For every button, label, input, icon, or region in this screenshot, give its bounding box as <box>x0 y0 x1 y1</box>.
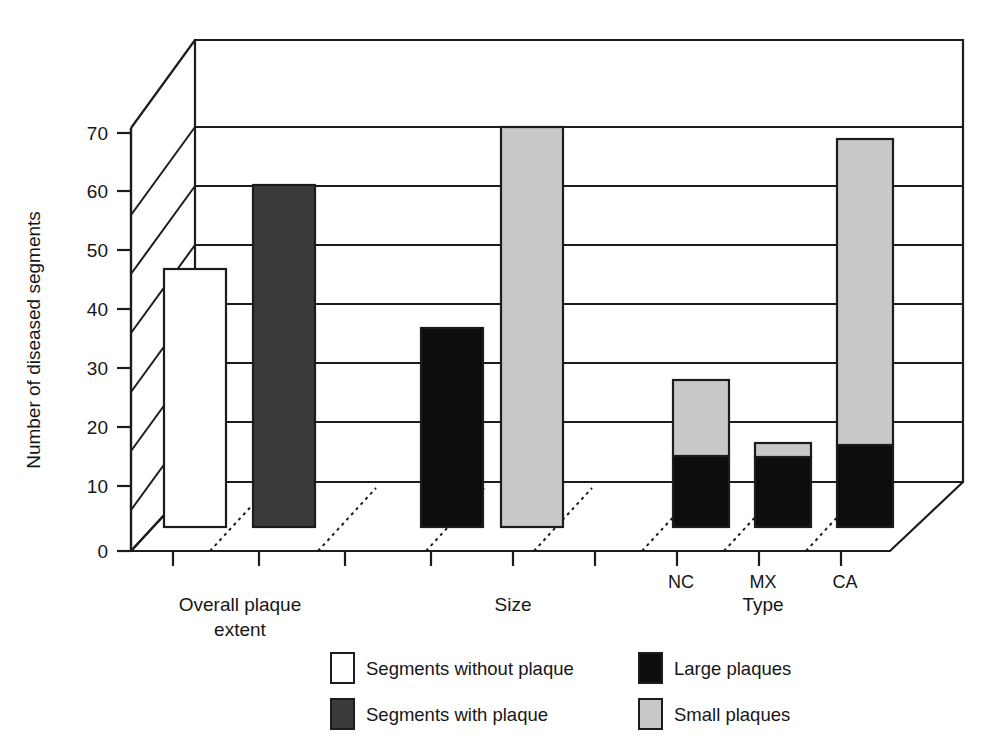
x-sub-label-ca: CA <box>832 572 857 592</box>
group-label-overall-plaque-extent-line2: extent <box>214 619 266 640</box>
bar-size-large-plaques[interactable] <box>421 328 483 527</box>
legend-label-segments-with-plaque: Segments with plaque <box>366 704 548 725</box>
legend-swatch-segments-without-plaque <box>331 653 354 683</box>
bar-group-overall-plaque-extent <box>164 185 315 527</box>
group-label-overall-plaque-extent-line1: Overall plaque <box>179 594 302 615</box>
bar-group-type <box>673 139 893 527</box>
legend-item-small-plaques[interactable]: Small plaques <box>639 699 790 729</box>
legend-item-segments-without-plaque[interactable]: Segments without plaque <box>331 653 574 683</box>
y-tick-label-20: 20 <box>87 417 108 438</box>
bar-mx-large-plaques[interactable] <box>755 457 811 527</box>
y-tick-label-30: 30 <box>87 358 108 379</box>
left-wall-top-edge <box>131 40 195 128</box>
bar-segments-with-plaque[interactable] <box>253 185 315 527</box>
y-tick-label-10: 10 <box>87 476 108 497</box>
y-tick-label-60: 60 <box>87 181 108 202</box>
depth-line-2 <box>318 488 376 551</box>
x-sub-label-mx: MX <box>750 572 777 592</box>
stacked-bar-nc <box>673 380 729 527</box>
chart-figure: 70 60 50 40 30 20 10 0 Number of disease… <box>0 0 990 747</box>
y-tick-label-40: 40 <box>87 299 108 320</box>
gridline-slant-60 <box>131 186 195 274</box>
bar-size-small-plaques[interactable] <box>501 127 563 527</box>
bar-ca-small-plaques[interactable] <box>837 139 893 445</box>
bar-chart-canvas: 70 60 50 40 30 20 10 0 Number of disease… <box>0 0 990 747</box>
bar-mx-small-plaques[interactable] <box>755 443 811 457</box>
x-sub-label-nc: NC <box>668 572 694 592</box>
legend-label-segments-without-plaque: Segments without plaque <box>366 658 574 679</box>
legend-swatch-segments-with-plaque <box>331 699 354 729</box>
x-axis-group-labels: Overall plaque extent Size Type <box>179 594 784 640</box>
x-axis-subcategory-labels: NC MX CA <box>668 572 858 592</box>
chart-legend: Segments without plaque Segments with pl… <box>331 653 791 729</box>
bar-ca-large-plaques[interactable] <box>837 445 893 527</box>
bar-nc-large-plaques[interactable] <box>673 456 729 527</box>
y-axis: 70 60 50 40 30 20 10 0 Number of disease… <box>23 123 131 562</box>
legend-swatch-large-plaques <box>639 653 662 683</box>
group-label-type: Type <box>742 594 783 615</box>
group-label-size: Size <box>495 594 532 615</box>
stacked-bar-ca <box>837 139 893 527</box>
y-axis-title: Number of diseased segments <box>23 211 44 469</box>
legend-swatch-small-plaques <box>639 699 662 729</box>
legend-label-small-plaques: Small plaques <box>674 704 790 725</box>
gridline-slant-70 <box>131 127 195 215</box>
bar-segments-without-plaque[interactable] <box>164 269 226 527</box>
legend-item-segments-with-plaque[interactable]: Segments with plaque <box>331 699 548 729</box>
x-axis-ticks <box>173 551 841 566</box>
legend-label-large-plaques: Large plaques <box>674 658 791 679</box>
y-tick-label-50: 50 <box>87 240 108 261</box>
y-tick-label-70: 70 <box>87 123 108 144</box>
stacked-bar-mx <box>755 443 811 527</box>
y-tick-label-0: 0 <box>97 541 108 562</box>
legend-item-large-plaques[interactable]: Large plaques <box>639 653 791 683</box>
bar-nc-small-plaques[interactable] <box>673 380 729 456</box>
